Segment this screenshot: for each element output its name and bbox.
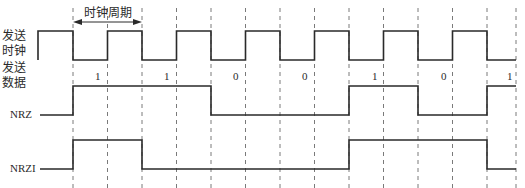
data-bit: 1 [507,70,513,82]
nrz-waveform [40,86,516,115]
data-label-line1: 发送 [2,61,26,76]
clock-period-label: 时钟周期 [80,3,136,20]
data-bit: 1 [372,70,378,82]
data-bit: 0 [441,70,447,82]
data-bit: 1 [164,70,170,82]
clock-label-line1: 发送 [2,29,26,44]
timing-diagram [0,0,525,188]
clock-edge-guides [73,8,516,188]
nrzi-label: NRZI [10,162,36,174]
nrz-label: NRZ [10,108,32,120]
data-bit: 1 [95,70,101,82]
data-bit: 0 [302,70,308,82]
clock-waveform [38,31,516,60]
clock-label: 发送 时钟 [2,29,26,59]
data-label: 发送 数据 [2,61,26,91]
clock-label-line2: 时钟 [2,44,26,59]
nrzi-waveform [40,140,516,169]
data-bit: 0 [233,70,239,82]
data-label-line2: 数据 [2,76,26,91]
